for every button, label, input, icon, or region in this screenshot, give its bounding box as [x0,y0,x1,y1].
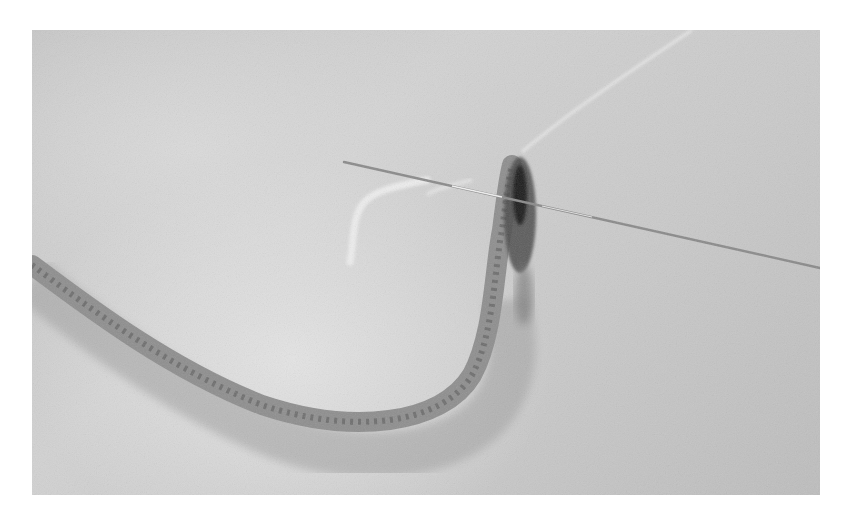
fabric-texture [32,30,820,495]
photo-scene [32,30,820,495]
photo [32,30,820,495]
